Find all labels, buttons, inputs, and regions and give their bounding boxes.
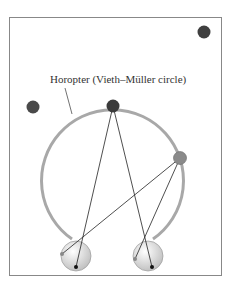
fixation-point <box>107 100 120 113</box>
horopter-diagram <box>0 0 232 291</box>
right-eye-fovea <box>150 265 154 269</box>
frame <box>10 18 222 276</box>
horopter-label: Horopter (Vieth–Müller circle) <box>50 73 186 85</box>
outside-point-left <box>27 101 40 114</box>
left-eye-retina-point <box>60 252 64 256</box>
right-eye-retina-point <box>133 257 137 261</box>
left-eye-fovea <box>74 265 78 269</box>
on-circle-point <box>174 152 187 165</box>
outside-point-top-right <box>198 26 211 39</box>
right-eye <box>133 241 163 271</box>
